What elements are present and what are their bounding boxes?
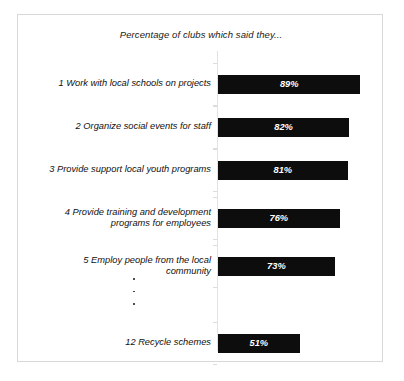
bar-value-label: 73%	[218, 257, 335, 276]
bar-category-label: 1 Work with local schools on projects	[18, 78, 211, 90]
axis-tick	[213, 191, 217, 192]
bar-row: 1 Work with local schools on projects89%	[18, 64, 384, 104]
plot-area: 1 Work with local schools on projects89%…	[18, 51, 384, 351]
bar-value-label: 82%	[218, 118, 349, 137]
bar-row: 5 Employ people from the localcommunity7…	[18, 246, 384, 286]
chart-title: Percentage of clubs which said they...	[18, 29, 384, 40]
bar-category-label: 12 Recycle schemes	[18, 337, 211, 349]
bar-category-label-line: 4 Provide training and development	[18, 207, 211, 219]
bar-category-label: 2 Organize social events for staff	[18, 121, 211, 133]
bar-rect: 73%	[218, 257, 335, 276]
bar-row: 3 Provide support local youth programs81…	[18, 150, 384, 190]
bar-rect: 76%	[218, 209, 340, 228]
ellipsis-dot	[133, 303, 135, 305]
bar-category-label: 4 Provide training and developmentprogra…	[18, 207, 211, 230]
ellipsis-dot	[133, 291, 135, 293]
axis-tick	[213, 287, 217, 288]
bar-category-label-line: 2 Organize social events for staff	[18, 121, 211, 133]
bar-category-label-line: 5 Employ people from the local	[18, 255, 211, 267]
bar-rect: 81%	[218, 161, 348, 180]
bar-row: 12 Recycle schemes51%	[18, 323, 384, 363]
bar-category-label-line: programs for employees	[18, 218, 211, 230]
bar-category-label-line: 3 Provide support local youth programs	[18, 164, 211, 176]
bar-category-label-line: community	[18, 266, 211, 278]
bar-value-label: 89%	[218, 75, 360, 94]
bar-value-label: 76%	[218, 209, 340, 228]
bar-row: 4 Provide training and developmentprogra…	[18, 198, 384, 238]
bar-category-label-line: 1 Work with local schools on projects	[18, 78, 211, 90]
axis-tick	[213, 239, 217, 240]
bar-rect: 51%	[218, 334, 300, 353]
bar-rect: 82%	[218, 118, 349, 137]
bar-rect: 89%	[218, 75, 360, 94]
chart-figure: Percentage of clubs which said they... 1…	[17, 14, 383, 362]
bar-category-label-line: 12 Recycle schemes	[18, 337, 211, 349]
bar-category-label: 5 Employ people from the localcommunity	[18, 255, 211, 278]
axis-tick	[213, 364, 217, 365]
ellipsis-dot	[133, 278, 135, 280]
bar-value-label: 81%	[218, 161, 348, 180]
bar-value-label: 51%	[218, 334, 300, 353]
bar-category-label: 3 Provide support local youth programs	[18, 164, 211, 176]
vertical-ellipsis	[128, 278, 140, 316]
bar-row: 2 Organize social events for staff82%	[18, 107, 384, 147]
